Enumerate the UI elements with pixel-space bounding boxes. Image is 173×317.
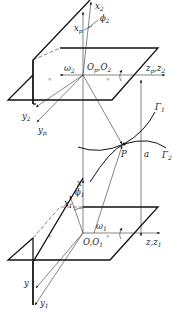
lower-coordinate-system: ⩦ ⩦ (8, 146, 160, 305)
omega2-rotation-icon (120, 70, 122, 81)
phi1-arc (74, 208, 83, 210)
label-y: y (23, 278, 29, 288)
label-omega2: ω2 (64, 63, 75, 74)
upper-coordinate-system: ⩦ ⩦ (8, 0, 165, 144)
label-o-o1: O,O1 (83, 237, 103, 248)
labels: x2 xp ϕ2 ω2 Op,O2 zp,z2 y2 yp Γ1 Γ2 P a … (21, 1, 172, 309)
bearing-mark-icon: ⩦ (48, 232, 52, 238)
omega1-rotation-icon (120, 228, 122, 239)
label-gamma2: Γ2 (161, 150, 172, 161)
label-yp: yp (37, 125, 47, 137)
label-x2: x2 (95, 1, 104, 12)
label-omega1: ω1 (96, 221, 107, 232)
contact-point-p (122, 142, 125, 145)
bearing-mark-icon: ⩦ (48, 75, 52, 81)
label-xp: xp (74, 23, 83, 35)
contact-curves (78, 112, 166, 182)
y1-axis (35, 233, 83, 305)
gear-coordinate-diagram: ⩦ ⩦ ⩦ ⩦ x2 xp ϕ2 ω2 Op,O2 zp (0, 0, 173, 317)
yp-axis (37, 75, 83, 122)
label-z-z1: z,z1 (145, 237, 162, 248)
bearing-mark-icon: ⩦ (106, 75, 110, 81)
upper-vertical-plane-dashed (33, 48, 60, 60)
label-y2: y2 (21, 111, 31, 122)
upper-vertical-plane (33, 0, 90, 104)
o2-to-p-line (83, 75, 122, 144)
label-gamma1: Γ1 (154, 102, 165, 113)
label-zp-z2: zp,z2 (145, 63, 166, 75)
o1-to-p-line (94, 146, 122, 233)
label-a: a (144, 149, 149, 159)
bearing-mark-icon: ⩦ (106, 232, 110, 238)
gamma1-curve (90, 112, 155, 182)
y2-axis (36, 75, 83, 107)
label-y1: y1 (39, 298, 49, 309)
label-p: P (120, 149, 127, 159)
label-op-o2: Op,O2 (87, 62, 111, 74)
label-phi2: ϕ2 (100, 13, 110, 24)
